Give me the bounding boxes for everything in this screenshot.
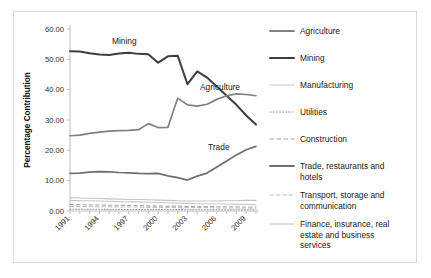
y-tick-label: 50.00 bbox=[45, 55, 64, 64]
x-tick-label: 2000 bbox=[141, 214, 159, 232]
y-tick-label: 60.00 bbox=[45, 25, 64, 34]
legend-label-5[interactable]: hotels bbox=[300, 172, 322, 182]
y-tick-label: 20.00 bbox=[45, 146, 64, 155]
legend-label-5[interactable]: Trade, restaurants and bbox=[300, 161, 385, 171]
x-tick-label: 2009 bbox=[229, 214, 247, 232]
legend-label-6[interactable]: Transport, storage and bbox=[300, 190, 385, 200]
y-tick-label: 0.00 bbox=[49, 207, 64, 216]
line-chart: 0.0010.0020.0030.0040.0050.0060.00199119… bbox=[0, 0, 431, 278]
y-axis-title: Percentage Contribution bbox=[23, 72, 32, 168]
x-tick-label: 1997 bbox=[112, 214, 130, 232]
y-tick-label: 30.00 bbox=[45, 116, 64, 125]
legend-label-3[interactable]: Utilities bbox=[300, 107, 327, 117]
y-tick-label: 40.00 bbox=[45, 85, 64, 94]
legend-label-7[interactable]: Finance, insurance, real bbox=[300, 219, 390, 229]
x-tick-label: 2006 bbox=[200, 214, 218, 232]
chart-svg: 0.0010.0020.0030.0040.0050.0060.00199119… bbox=[0, 0, 431, 278]
legend-label-7[interactable]: estate and business bbox=[300, 230, 375, 240]
y-tick-label: 10.00 bbox=[45, 176, 64, 185]
x-tick-label: 2003 bbox=[171, 214, 189, 232]
legend-label-6[interactable]: communication bbox=[300, 201, 357, 211]
legend-label-1[interactable]: Mining bbox=[300, 53, 325, 63]
legend-label-4[interactable]: Construction bbox=[300, 134, 347, 144]
series-line-utilities bbox=[70, 209, 256, 210]
legend-label-7[interactable]: services bbox=[300, 240, 331, 250]
annotation-mining: Mining bbox=[112, 36, 137, 46]
x-tick-label: 1994 bbox=[82, 214, 100, 232]
x-tick-label: 1991 bbox=[53, 214, 71, 232]
annotation-trade: Trade bbox=[208, 142, 230, 152]
series-line-agriculture bbox=[70, 94, 256, 136]
legend-label-0[interactable]: Agriculture bbox=[300, 26, 340, 36]
series-line-transport bbox=[70, 206, 256, 208]
annotation-agriculture: Agriculture bbox=[200, 82, 240, 92]
legend-label-2[interactable]: Manufacturing bbox=[300, 80, 353, 90]
